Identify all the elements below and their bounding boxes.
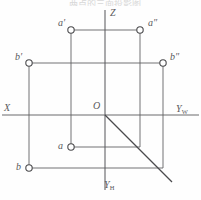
bisector-group [105, 115, 172, 182]
axis-label-x-text: X [4, 102, 10, 113]
node-a-side [137, 27, 143, 33]
diagonal-bisector-line [105, 115, 172, 182]
axis-label-yh: YH [104, 180, 114, 190]
axis-label-yh-sub: H [110, 184, 115, 191]
node-a-top [68, 144, 74, 150]
projection-lines-group [29, 30, 163, 168]
projection-drawing-canvas [0, 0, 201, 200]
point-label-b-side: b″ [170, 52, 179, 62]
axis-label-z-text: Z [110, 7, 116, 18]
axis-label-x: X [4, 103, 10, 113]
node-b-front [26, 60, 32, 66]
node-b-side [160, 60, 166, 66]
axis-group [2, 10, 199, 190]
axis-label-z: Z [110, 8, 116, 18]
point-label-b-side-prime: ″ [175, 51, 179, 62]
point-label-b-top: b [16, 162, 21, 172]
point-nodes-group [26, 27, 166, 171]
point-label-a-side-prime: ″ [153, 17, 157, 28]
projection-figure: 两点的三面投影图 Z [0, 0, 201, 200]
point-label-b-top-text: b [16, 161, 21, 172]
point-label-a-front: a′ [58, 18, 65, 28]
point-label-a-top: a [58, 141, 63, 151]
point-label-a-front-prime: ′ [63, 17, 65, 28]
point-label-b-front: b′ [15, 52, 22, 62]
axis-label-yw: YW [176, 104, 188, 114]
axis-label-origin: O [93, 101, 100, 111]
axis-label-yw-sub: W [182, 108, 188, 115]
point-label-b-front-prime: ′ [20, 51, 22, 62]
axis-label-yh-text: Y [104, 179, 110, 190]
point-label-a-side: a″ [148, 18, 157, 28]
axis-label-origin-text: O [93, 100, 100, 111]
axis-label-yw-text: Y [176, 103, 182, 114]
node-a-front [68, 27, 74, 33]
point-label-a-top-text: a [58, 140, 63, 151]
node-b-top [26, 165, 32, 171]
